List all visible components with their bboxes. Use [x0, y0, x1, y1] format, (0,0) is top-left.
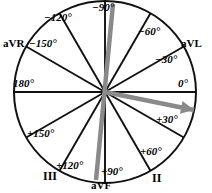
angle-label-60: +60°	[140, 146, 162, 157]
angle-label-0: 0°	[178, 78, 188, 89]
angle-label--150: −150°	[29, 38, 57, 49]
angle-label-30: +30°	[156, 114, 178, 125]
lead-label-avr: aVR	[3, 38, 24, 49]
lead-label-ii: II	[152, 172, 161, 184]
angle-label-120: +120°	[56, 160, 83, 171]
angle-label-180: 180°	[13, 78, 34, 89]
angle-label--90: −90°	[92, 2, 114, 13]
lead-label-iii: III	[43, 170, 57, 182]
lead-label-avl: aVL	[181, 38, 202, 49]
angle-label-90: +90°	[101, 166, 123, 177]
angle-label-150: +150°	[27, 128, 54, 139]
lead-label-avf: aVF	[91, 180, 111, 191]
angle-label--30: −30°	[155, 54, 177, 65]
angle-label--60: −60°	[138, 26, 160, 37]
angle-label--120: −120°	[44, 12, 72, 23]
hexaxial-diagram: −120°−90°−60°−30°0°+30°+60°+90°+120°+150…	[0, 0, 212, 193]
